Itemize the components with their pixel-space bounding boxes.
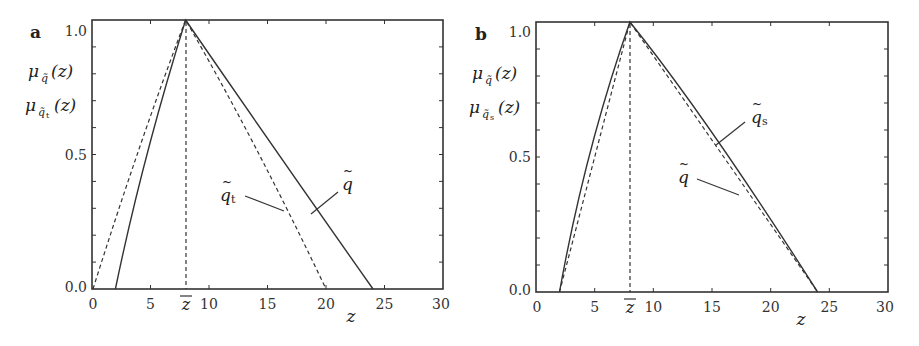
svg-text:~: ~ (679, 157, 689, 171)
y-tick-0.0-b: 0.0 (509, 282, 531, 298)
svg-text:s: s (762, 115, 768, 128)
panel-b: b 1.0 0.5 0.0 μ q̃ (z) μ q̃ s (z) (469, 22, 894, 329)
panel-a: a 1.0 0.5 0.0 μ q̃ (z) μ q̃ t (z) (25, 20, 450, 326)
svg-text:(z): (z) (495, 63, 517, 83)
y-tick-0.0: 0.0 (65, 279, 87, 295)
x-tick-0-b: 0 (533, 299, 542, 315)
svg-text:q̃: q̃ (482, 108, 489, 121)
annotation-q-a: q ~ (311, 164, 353, 214)
x-axis-label-b: z (796, 309, 807, 329)
svg-text:~: ~ (343, 164, 353, 178)
z-bar-label-b: z (624, 298, 636, 317)
x-tick-5: 5 (146, 296, 155, 312)
panel-b-label: b (475, 24, 487, 44)
figure: a 1.0 0.5 0.0 μ q̃ (z) μ q̃ t (z) (0, 0, 919, 346)
y-tick-1.0: 1.0 (65, 23, 87, 39)
x-tick-20-b: 20 (762, 299, 780, 315)
svg-text:(z): (z) (51, 61, 73, 81)
svg-text:μ: μ (28, 61, 39, 81)
x-tick-10-b: 10 (644, 299, 662, 315)
plot-area-a (92, 20, 443, 289)
svg-text:μ: μ (472, 63, 483, 83)
x-tick-25: 25 (376, 296, 394, 312)
svg-text:t: t (231, 193, 236, 206)
y-axis-label-mu-qs-b: μ q̃ s (z) (469, 97, 520, 122)
x-axis-label-a: z (346, 306, 357, 326)
svg-text:s: s (490, 113, 494, 122)
x-tick-10: 10 (200, 296, 218, 312)
x-tick-25-b: 25 (820, 299, 838, 315)
y-axis-label-mu-q: μ q̃ (z) (28, 61, 73, 85)
series-q-a (115, 20, 373, 289)
x-tick-5-b: 5 (590, 299, 599, 315)
svg-text:(z): (z) (54, 95, 76, 115)
annotation-qt-a: q ~ t (220, 175, 284, 211)
svg-text:μ: μ (25, 95, 36, 115)
y-ticks-a (92, 47, 443, 262)
svg-text:q̃: q̃ (485, 74, 492, 87)
panel-a-label: a (30, 22, 41, 42)
y-tick-0.5-b: 0.5 (509, 149, 531, 165)
x-tick-15: 15 (259, 296, 277, 312)
z-bar-label-a: z (180, 295, 192, 314)
y-tick-1.0-b: 1.0 (509, 24, 531, 40)
x-tick-30-b: 30 (876, 299, 894, 315)
svg-text:~: ~ (752, 97, 762, 111)
svg-text:~: ~ (222, 175, 232, 189)
svg-text:t: t (46, 111, 50, 120)
svg-text:(z): (z) (498, 97, 520, 117)
annotation-qs-b: q ~ s (716, 97, 768, 145)
x-tick-30: 30 (432, 296, 450, 312)
x-tick-15-b: 15 (703, 299, 721, 315)
x-tick-0: 0 (89, 296, 98, 312)
svg-text:z: z (625, 298, 635, 317)
svg-text:q̃: q̃ (41, 72, 48, 85)
y-axis-label-mu-qt: μ q̃ t (z) (25, 95, 76, 120)
series-qt-a (93, 20, 326, 289)
svg-text:μ: μ (469, 97, 480, 117)
y-axis-label-mu-q-b: μ q̃ (z) (472, 63, 517, 87)
svg-text:z: z (181, 295, 191, 314)
x-tick-20: 20 (317, 296, 335, 312)
annotation-q-b: q ~ (678, 157, 739, 195)
svg-text:q̃: q̃ (38, 106, 45, 119)
y-tick-0.5: 0.5 (65, 147, 87, 163)
